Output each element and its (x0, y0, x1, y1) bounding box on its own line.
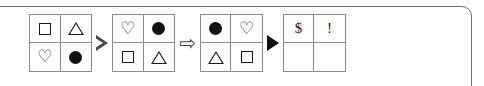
operator-2: ⇨ (179, 14, 196, 72)
symbol-grid-3[interactable]: ♡ (200, 14, 263, 72)
hollow-triangle-right-icon (96, 35, 108, 51)
symbol-grid-2[interactable]: ♡ (112, 14, 175, 72)
heart-outline-icon: ♡ (120, 20, 135, 37)
solid-triangle-right-icon (267, 35, 279, 51)
dollar-sign-icon: $ (295, 21, 303, 36)
triangle-outline-icon (68, 22, 84, 35)
triangle-outline-icon (151, 51, 167, 64)
grid-3-cell-bottom-left[interactable] (201, 43, 232, 71)
symbol-grid-1[interactable]: ♡ (29, 14, 92, 72)
grid-3-cell-top-right[interactable]: ♡ (231, 15, 262, 43)
grid-2-cell-bottom-right[interactable] (144, 43, 175, 71)
block-arrow-right-icon: ⇨ (179, 33, 196, 53)
square-outline-icon (241, 51, 253, 63)
exclamation-mark-icon: ! (327, 21, 332, 36)
grid-2-cell-top-left[interactable]: ♡ (113, 15, 144, 43)
operator-1 (96, 14, 108, 72)
grid-4-cell-top-right[interactable]: ! (314, 15, 345, 43)
grid-1-cell-top-right[interactable] (61, 15, 92, 43)
grid-1-cell-bottom-right[interactable] (61, 43, 92, 71)
grid-1-cell-bottom-left[interactable]: ♡ (30, 43, 61, 71)
puzzle-canvas: ♡ ♡ (0, 0, 484, 86)
grid-2-cell-top-right[interactable] (144, 15, 175, 43)
circle-filled-icon (209, 22, 222, 35)
grid-4-cell-top-left[interactable]: $ (284, 15, 315, 43)
triangle-outline-icon (208, 51, 224, 64)
circle-filled-icon (69, 51, 82, 64)
analogy-sequence: ♡ ♡ (0, 0, 484, 86)
grid-1-cell-top-left[interactable] (30, 15, 61, 43)
heart-outline-icon: ♡ (239, 20, 254, 37)
symbol-grid-4[interactable]: $ ! (283, 14, 346, 72)
circle-filled-icon (152, 22, 165, 35)
heart-outline-icon: ♡ (37, 48, 52, 65)
square-outline-icon (39, 23, 51, 35)
square-outline-icon (122, 51, 134, 63)
operator-3 (267, 14, 279, 72)
grid-2-cell-bottom-left[interactable] (113, 43, 144, 71)
grid-3-cell-bottom-right[interactable] (231, 43, 262, 71)
grid-3-cell-top-left[interactable] (201, 15, 232, 43)
grid-4-cell-bottom-left[interactable] (284, 43, 315, 71)
grid-4-cell-bottom-right[interactable] (314, 43, 345, 71)
